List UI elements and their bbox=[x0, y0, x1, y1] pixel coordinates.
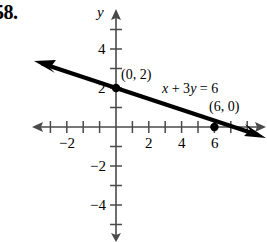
y-tick-label-minus2: −2 bbox=[90, 159, 106, 174]
graph-figure: 58. bbox=[0, 0, 267, 242]
x-tick-label-4: 4 bbox=[178, 136, 186, 151]
x-tick-label-minus2: −2 bbox=[59, 136, 75, 151]
x-tick-label-2: 2 bbox=[145, 136, 153, 151]
equation-label: x + 3y = 6 bbox=[162, 82, 218, 96]
y-tick-label-2: 2 bbox=[98, 81, 106, 96]
point-label-x-intercept: (6, 0) bbox=[209, 100, 239, 114]
y-tick-label-4: 4 bbox=[98, 42, 106, 57]
y-tick-label-minus4: −4 bbox=[90, 198, 106, 213]
y-axis-label: y bbox=[97, 5, 104, 20]
x-tick-label-6: 6 bbox=[211, 136, 219, 151]
point-label-y-intercept: (0, 2) bbox=[121, 68, 151, 82]
equation-tail: = 6 bbox=[196, 81, 218, 96]
point-marker-y-intercept bbox=[112, 84, 120, 92]
coordinate-plane-svg bbox=[0, 0, 267, 242]
point-marker-x-intercept bbox=[210, 123, 218, 131]
equation-middle: + 3 bbox=[168, 81, 190, 96]
